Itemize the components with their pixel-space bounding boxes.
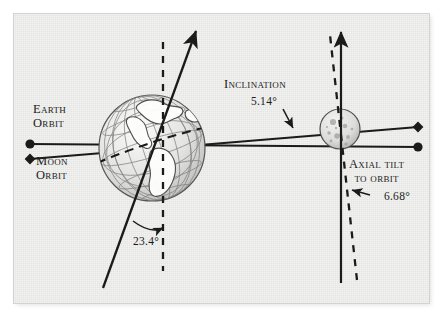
earth-tilt-angle-arc [133, 221, 163, 230]
figure-root: Earth Orbit Moon Orbit Inclination 5.14°… [0, 0, 443, 318]
inclination-label: Inclination [224, 78, 286, 92]
earth-orbit-label: Earth Orbit [33, 103, 66, 130]
axial-tilt-value: 6.68° [372, 190, 422, 202]
earth-axial-tilt-value: 23.4° [122, 235, 170, 247]
axial-tilt-label: Axial tilt to orbit [349, 158, 404, 185]
earth-orbit-marker-right [413, 142, 422, 151]
earth-orbit-line-group [25, 139, 422, 151]
moon-orbit-marker-right [413, 122, 424, 133]
moon-orbit-marker-left [25, 154, 36, 165]
earth-group [92, 84, 213, 213]
axial-tilt-leader-arrow [352, 190, 370, 195]
moon-orbit-label: Moon Orbit [36, 155, 68, 182]
inclination-value: 5.14° [236, 95, 292, 107]
earth-orbit-line [30, 144, 418, 147]
inclination-leader-arrow [283, 109, 293, 128]
earth-orbit-marker-left [25, 139, 34, 148]
